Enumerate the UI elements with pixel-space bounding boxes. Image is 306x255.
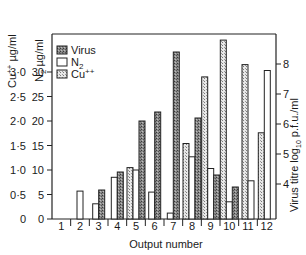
- bar-cu-5: [127, 168, 133, 219]
- bar-cu-8: [183, 144, 189, 220]
- bar-virus-6: [155, 112, 161, 219]
- bar-n2-7: [167, 213, 173, 219]
- bar-n2-4: [111, 177, 117, 219]
- x-tick-label: 10: [223, 220, 235, 232]
- x-tick-label: 4: [114, 220, 120, 232]
- svg-text:Virus: Virus: [71, 44, 96, 56]
- cu-tick-label: 2·0: [10, 115, 26, 127]
- n2-tick-label: 0: [38, 213, 44, 225]
- bar-virus-8: [195, 118, 201, 219]
- n2-tick-label: 25: [32, 91, 44, 103]
- cu-axis-title: Cu++ µg/ml: [5, 34, 18, 88]
- cu-tick-label: 1·0: [10, 164, 26, 176]
- chart: 0050·5101·0151·5202·0252·5303·0 45678 12…: [0, 0, 306, 255]
- x-axis-title: Output number: [129, 238, 203, 250]
- bars-layer: [77, 40, 270, 219]
- bar-virus-4: [117, 172, 123, 219]
- bar-n2-5: [133, 170, 139, 219]
- bar-n2-9: [208, 169, 214, 220]
- bar-n2-12: [264, 71, 270, 220]
- bar-n2-3: [93, 204, 99, 219]
- n2-tick-label: 10: [32, 164, 44, 176]
- svg-text:Cu++: Cu++: [71, 67, 95, 80]
- bar-virus-3: [99, 190, 105, 219]
- bar-n2-6: [149, 192, 155, 219]
- x-axis: 123456789101112: [58, 219, 273, 232]
- x-tick-label: 1: [58, 220, 64, 232]
- bar-n2-10: [226, 202, 232, 219]
- x-tick-label: 3: [96, 220, 102, 232]
- legend-item-virus: Virus: [57, 44, 96, 56]
- x-tick-label: 11: [242, 220, 253, 232]
- legend-item-cu: Cu++: [57, 67, 95, 80]
- cu-tick-label: 0·5: [10, 189, 26, 201]
- n2-tick-label: 20: [32, 115, 44, 127]
- bar-virus-10: [232, 187, 238, 219]
- n2-axis-title: N2 µg/ml: [33, 39, 48, 82]
- bar-n2-2: [77, 191, 83, 219]
- bar-cu-11: [242, 65, 248, 219]
- virus-tick-label: 8: [283, 58, 289, 70]
- cu-tick-label: 0: [20, 213, 26, 225]
- cu-tick-label: 1·5: [10, 140, 26, 152]
- bar-cu-9: [202, 77, 208, 219]
- x-tick-label: 2: [77, 220, 83, 232]
- cu-tick-label: 2·5: [10, 91, 26, 103]
- n2-tick-label: 15: [32, 140, 44, 152]
- x-tick-label: 7: [170, 220, 176, 232]
- x-tick-label: 9: [208, 220, 214, 232]
- bar-cu-10: [220, 40, 226, 219]
- x-tick-label: 12: [261, 220, 273, 232]
- x-tick-label: 5: [133, 220, 139, 232]
- bar-virus-5: [139, 121, 145, 219]
- bar-cu-12: [258, 133, 264, 219]
- bar-n2-8: [189, 157, 195, 219]
- left-axis: 0050·5101·0151·5202·0252·5303·0: [10, 66, 52, 225]
- legend: Virus N2 Cu++: [57, 44, 96, 80]
- bar-virus-7: [173, 52, 179, 219]
- bar-virus-9: [214, 175, 220, 219]
- bar-n2-11: [248, 181, 254, 219]
- right-axis-title: Virus titre log10 p.f.u./ml: [288, 98, 302, 212]
- x-tick-label: 6: [152, 220, 158, 232]
- n2-tick-label: 5: [38, 189, 44, 201]
- x-tick-label: 8: [189, 220, 195, 232]
